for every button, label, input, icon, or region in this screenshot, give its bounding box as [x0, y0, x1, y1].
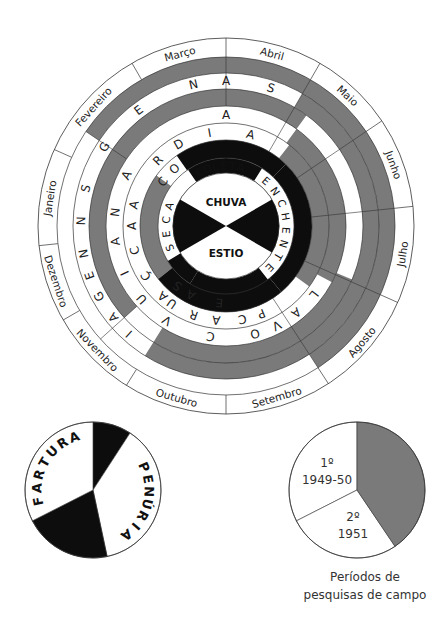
research-periods-pie: 1º 1949-50 2º 1951 — [289, 422, 425, 558]
caption-line-2: pesquisas de campo — [300, 586, 430, 604]
ring-letter: E — [215, 295, 224, 310]
chuva-label: CHUVA — [206, 196, 247, 208]
seasonal-wheel: AbrilMaioJunhoJulhoAgostoSetembroOutubro… — [38, 38, 414, 414]
research-periods-caption: Períodos de pesquisas de campo — [300, 568, 430, 604]
ring-letter: A — [125, 221, 139, 230]
ring-letter: N — [108, 207, 123, 218]
first-period-ordinal: 1º — [320, 456, 334, 470]
calendar-diagram: AbrilMaioJunhoJulhoAgostoSetembroOutubro… — [0, 0, 445, 628]
ring-letter: N — [74, 216, 88, 225]
season-letter: E — [220, 159, 227, 171]
estio-label: ESTIO — [209, 247, 244, 259]
second-period-ordinal: 2º — [346, 510, 360, 524]
first-period-years: 1949-50 — [302, 473, 352, 487]
season-letter: E — [280, 227, 292, 234]
fartura-letter: A — [29, 482, 44, 494]
penuria-letter: N — [141, 486, 156, 498]
caption-line-1: Períodos de — [300, 568, 430, 586]
second-period-years: 1951 — [338, 527, 369, 541]
fartura-penuria-pie: FARTURAPENÚRIA — [25, 422, 161, 558]
ring-letter: A — [222, 108, 231, 122]
season-letter: C — [159, 216, 172, 225]
ring-letter: A — [222, 74, 231, 88]
